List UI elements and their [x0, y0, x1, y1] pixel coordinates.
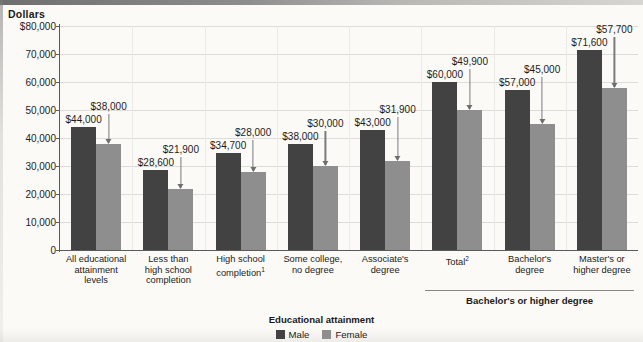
y-axis-tick-label: $80,000 — [2, 21, 56, 32]
bar-male[interactable] — [288, 144, 313, 250]
chart-legend: Educational attainment Male Female — [0, 314, 643, 340]
bar-value-label-male: $34,700 — [210, 140, 246, 151]
value-arrow-female-icon — [614, 37, 615, 88]
group-separator — [132, 26, 133, 250]
bar-female[interactable] — [530, 124, 555, 250]
value-arrow-female-icon — [108, 114, 109, 143]
bachelors-bracket-line — [425, 290, 634, 291]
bar-value-label-female: $21,900 — [163, 144, 199, 155]
legend-swatch-female-icon — [322, 330, 331, 339]
x-axis-category-label: Some college,no degree — [277, 254, 349, 275]
bar-value-label-male: $60,000 — [427, 69, 463, 80]
bar-value-label-female: $45,000 — [524, 64, 560, 75]
bar-female[interactable] — [602, 88, 627, 250]
bachelors-bracket-label: Bachelor's or higher degree — [425, 295, 634, 306]
group-separator — [205, 26, 206, 250]
bar-value-label-female: $30,000 — [307, 118, 343, 129]
bar-female[interactable] — [168, 189, 193, 250]
bar-female[interactable] — [313, 166, 338, 250]
value-arrow-female-icon — [325, 131, 326, 165]
x-axis-line — [59, 250, 638, 251]
scan-artifact-top-band — [0, 0, 643, 5]
bar-group — [71, 26, 121, 250]
bar-male[interactable] — [577, 50, 602, 250]
bar-value-label-male: $43,000 — [355, 117, 391, 128]
legend-item-female: Female — [322, 329, 367, 340]
legend-label-male: Male — [289, 329, 310, 340]
x-axis-category-label: Associate'sdegree — [349, 254, 421, 275]
bar-female[interactable] — [241, 172, 266, 250]
group-separator — [566, 26, 567, 250]
bar-male[interactable] — [432, 82, 457, 250]
bar-male[interactable] — [71, 127, 96, 250]
bar-group — [216, 26, 266, 250]
y-axis-tick-label: 10,000 — [2, 217, 56, 228]
y-axis-tick-label: 60,000 — [2, 77, 56, 88]
x-axis-category-label: Total2 — [421, 254, 493, 268]
y-axis-tick-label: 40,000 — [2, 133, 56, 144]
bar-group — [360, 26, 410, 250]
chart-plot-area: $44,000$38,000$28,600$21,900$34,700$28,0… — [60, 26, 638, 250]
y-axis-tick-labels: 010,00020,00030,00040,00050,00060,00070,… — [0, 0, 56, 342]
value-arrow-female-icon — [542, 77, 543, 123]
bar-group — [577, 26, 627, 250]
bar-value-label-female: $31,900 — [380, 104, 416, 115]
bar-value-label-male: $28,600 — [138, 157, 174, 168]
y-axis-tick-label: 20,000 — [2, 189, 56, 200]
bar-male[interactable] — [360, 130, 385, 250]
bar-female[interactable] — [96, 144, 121, 250]
bar-value-label-male: $57,000 — [499, 77, 535, 88]
bar-value-label-female: $38,000 — [91, 101, 127, 112]
group-separator — [494, 26, 495, 250]
group-separator — [421, 26, 422, 250]
x-axis-category-label: High schoolcompletion1 — [205, 254, 277, 278]
bar-group — [143, 26, 193, 250]
bar-male[interactable] — [505, 90, 530, 250]
bar-male[interactable] — [216, 153, 241, 250]
bar-value-label-female: $28,000 — [235, 127, 271, 138]
value-arrow-female-icon — [253, 140, 254, 171]
bar-male[interactable] — [143, 170, 168, 250]
value-arrow-female-icon — [180, 157, 181, 188]
bar-female[interactable] — [457, 110, 482, 250]
bar-female[interactable] — [385, 161, 410, 250]
y-axis-tick-label: 30,000 — [2, 161, 56, 172]
legend-items: Male Female — [0, 329, 643, 340]
bar-value-label-male: $71,600 — [571, 37, 607, 48]
y-axis-tick-label: 70,000 — [2, 49, 56, 60]
x-axis-category-label: Less thanhigh schoolcompletion — [132, 254, 204, 286]
group-separator — [349, 26, 350, 250]
legend-label-female: Female — [335, 329, 367, 340]
group-separator — [277, 26, 278, 250]
value-arrow-female-icon — [469, 69, 470, 109]
x-axis-category-label: Master's orhigher degree — [566, 254, 638, 275]
x-axis-category-label: All educationalattainmentlevels — [60, 254, 132, 286]
value-arrow-female-icon — [397, 117, 398, 160]
legend-item-male: Male — [276, 329, 310, 340]
bar-group — [505, 26, 555, 250]
bar-value-label-female: $57,700 — [596, 24, 632, 35]
x-axis-category-label: Bachelor'sdegree — [494, 254, 566, 275]
y-axis-tick-label: 0 — [2, 245, 56, 256]
legend-title: Educational attainment — [0, 314, 643, 325]
bar-value-label-female: $49,900 — [452, 56, 488, 67]
bar-value-label-male: $44,000 — [66, 114, 102, 125]
bar-value-label-male: $38,000 — [282, 131, 318, 142]
y-axis-tick-label: 50,000 — [2, 105, 56, 116]
legend-swatch-male-icon — [276, 330, 285, 339]
